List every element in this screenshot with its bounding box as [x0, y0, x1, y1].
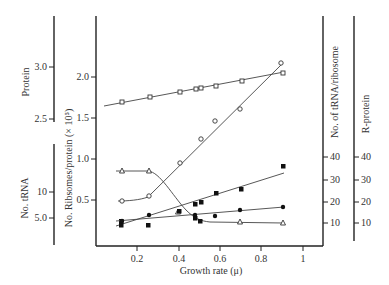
main-y-axis-title: No. Ribsomes/protein (× 10⁵) — [63, 109, 75, 228]
trna-tick-label: 10 — [37, 186, 47, 197]
main-y-tick-label: 1.5 — [77, 112, 90, 123]
x-tick-label: 0.8 — [255, 253, 268, 264]
series-ribosomes — [118, 61, 283, 203]
main-y-ticks: 2.0 1.5 1.0 0.5 — [77, 71, 97, 205]
series-trna-ribosome — [116, 168, 286, 225]
right1-tick-label: 40 — [330, 151, 340, 162]
protein-tick-label: 3.0 — [35, 61, 48, 72]
x-axis-title: Growth rate (μ) — [180, 265, 243, 277]
x-tick-label: 0.6 — [214, 253, 227, 264]
x-tick-label: 0.4 — [173, 253, 186, 264]
right2-tick-label: 20 — [361, 196, 371, 207]
right2-tick-label: 40 — [361, 151, 371, 162]
main-y-tick-label: 0.5 — [77, 194, 90, 205]
x-tick-label: 0.2 — [131, 253, 144, 264]
protein-axis-title: Protein — [20, 68, 31, 97]
right1-tick-label: 20 — [330, 196, 340, 207]
right1-tick-label: 30 — [330, 174, 340, 185]
right2-tick-label: 30 — [361, 174, 371, 185]
right1-ticks: 40 30 20 10 — [323, 151, 340, 228]
x-tick-label: 1 — [301, 253, 306, 264]
chart: 0.2 0.4 0.6 0.8 1 Growth rate (μ) 2.0 1.… — [0, 0, 389, 285]
x-ticks: 0.2 0.4 0.6 0.8 1 — [131, 246, 306, 264]
protein-tick-label: 2.5 — [35, 113, 48, 124]
main-y-tick-label: 1.0 — [77, 153, 90, 164]
right2-axis-title: R-protein — [360, 95, 371, 133]
right1-tick-label: 10 — [330, 217, 340, 228]
right1-axis-title: No. of tRNA/ribosome — [329, 45, 340, 138]
right2-ticks: 40 30 20 10 — [354, 151, 371, 228]
series-trna — [116, 164, 286, 228]
trna-tick-label: 5.0 — [35, 212, 48, 223]
main-y-tick-label: 2.0 — [77, 71, 90, 82]
right2-tick-label: 10 — [361, 217, 371, 228]
trna-axis-title: No. tRNA — [19, 177, 30, 219]
